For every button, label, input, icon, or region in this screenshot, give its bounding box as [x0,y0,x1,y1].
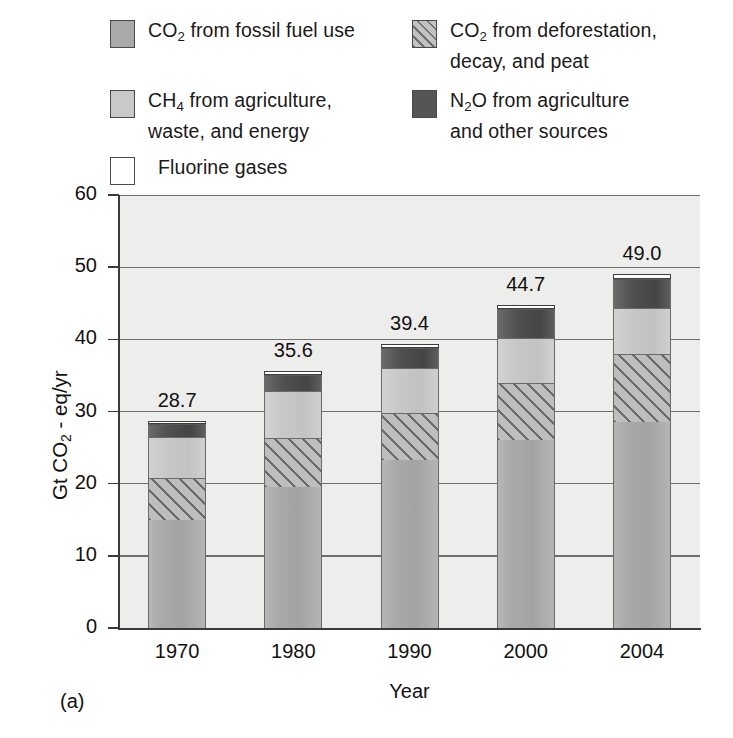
bar-segment-co2-defor[interactable] [613,354,671,423]
bar-segment-n2o[interactable] [148,424,206,437]
panel-caption: (a) [60,690,84,713]
bar-segment-fluorine[interactable] [381,344,439,348]
chart-plot: 0102030405060 19701980199020002004 28.73… [0,0,733,738]
x-axis-tick-label-1990: 1990 [365,640,455,663]
bar-segment-ch4[interactable] [148,437,206,478]
y-axis-tick-label: 0 [51,615,97,638]
bar-total-label-2004: 49.0 [587,242,697,265]
bar-total-label-1980: 35.6 [238,339,348,362]
x-axis-line [118,628,701,630]
bar-2000[interactable] [497,195,555,628]
x-axis-tick-label-2004: 2004 [597,640,687,663]
bar-segment-co2-fossil[interactable] [148,520,206,628]
bar-segment-co2-defor[interactable] [264,438,322,487]
x-axis-tick-label-2000: 2000 [481,640,571,663]
figure-root: CO2 from fossil fuel use CO2 from defore… [0,0,733,738]
bar-total-label-1990: 39.4 [355,312,465,335]
bar-segment-co2-defor[interactable] [497,383,555,441]
bar-segment-co2-fossil[interactable] [264,487,322,628]
bar-segment-ch4[interactable] [613,308,671,354]
x-axis-tick-label-1980: 1980 [248,640,338,663]
y-axis-tick-label: 50 [51,254,97,277]
y-axis-tick-label: 60 [51,182,97,205]
y-axis-title: Gt CO2 - eq/yr [48,370,74,500]
bar-segment-ch4[interactable] [264,391,322,438]
y-axis-tick-label: 40 [51,326,97,349]
bar-segment-n2o[interactable] [497,309,555,338]
y-axis-line [118,195,120,630]
bar-segment-co2-fossil[interactable] [613,422,671,628]
bar-total-label-1970: 28.7 [122,389,232,412]
x-axis-tick-label-1970: 1970 [132,640,222,663]
bar-segment-n2o[interactable] [613,279,671,307]
bar-total-label-2000: 44.7 [471,273,581,296]
bar-segment-fluorine[interactable] [264,371,322,375]
bar-1980[interactable] [264,195,322,628]
x-axis-title: Year [310,680,510,703]
bar-segment-fluorine[interactable] [497,305,555,309]
bar-segment-n2o[interactable] [381,348,439,368]
bar-segment-ch4[interactable] [497,338,555,383]
bar-segment-fluorine[interactable] [148,421,206,424]
bar-segment-co2-fossil[interactable] [381,460,439,628]
bar-segment-ch4[interactable] [381,368,439,413]
bar-segment-co2-defor[interactable] [381,413,439,460]
bar-segment-co2-defor[interactable] [148,478,206,520]
bar-1990[interactable] [381,195,439,628]
y-axis-tick-label: 10 [51,543,97,566]
bar-segment-fluorine[interactable] [613,274,671,279]
bar-segment-n2o[interactable] [264,375,322,392]
bar-segment-co2-fossil[interactable] [497,440,555,628]
